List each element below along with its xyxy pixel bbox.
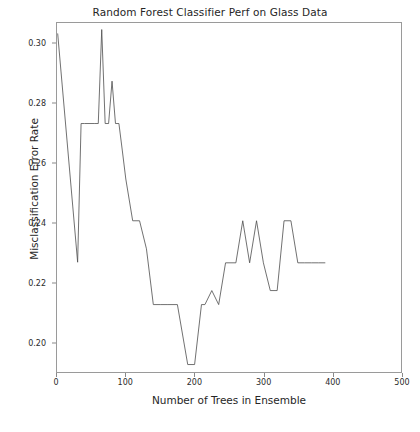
y-tick-label: 0.24 (0, 219, 46, 228)
y-tick-label: 0.28 (0, 99, 46, 108)
plot-area (56, 22, 402, 373)
x-tick-label: 300 (244, 378, 284, 387)
chart-title: Random Forest Classifier Perf on Glass D… (0, 6, 420, 18)
y-tick-mark (52, 283, 56, 284)
x-tick-mark (125, 373, 126, 377)
x-tick-mark (402, 373, 403, 377)
x-tick-label: 400 (313, 378, 353, 387)
chart-figure: Random Forest Classifier Perf on Glass D… (0, 0, 420, 432)
y-tick-label: 0.30 (0, 39, 46, 48)
y-tick-label: 0.26 (0, 159, 46, 168)
y-tick-mark (52, 223, 56, 224)
y-tick-mark (52, 163, 56, 164)
x-tick-mark (194, 373, 195, 377)
y-tick-mark (52, 103, 56, 104)
x-axis-label: Number of Trees in Ensemble (56, 394, 402, 406)
y-tick-mark (52, 43, 56, 44)
x-tick-mark (56, 373, 57, 377)
y-tick-label: 0.22 (0, 279, 46, 288)
x-tick-label: 500 (382, 378, 420, 387)
x-tick-mark (264, 373, 265, 377)
y-tick-label: 0.20 (0, 339, 46, 348)
x-tick-label: 0 (36, 378, 76, 387)
data-series-line (57, 23, 401, 372)
x-tick-label: 200 (174, 378, 214, 387)
x-tick-label: 100 (105, 378, 145, 387)
y-tick-mark (52, 343, 56, 344)
x-tick-mark (333, 373, 334, 377)
